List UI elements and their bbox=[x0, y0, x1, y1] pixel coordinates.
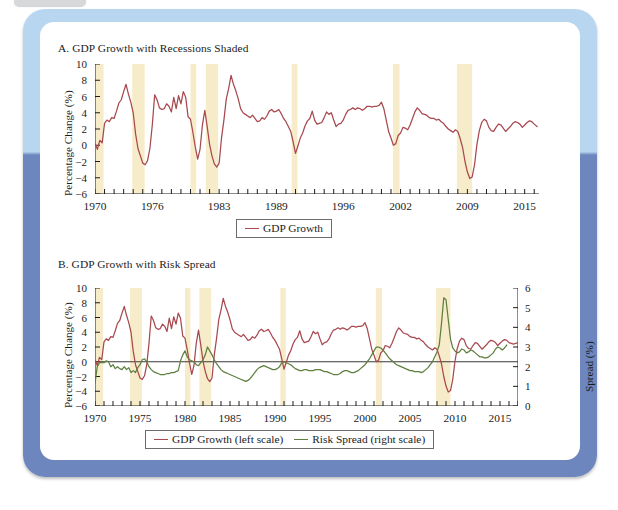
line-dash-icon bbox=[245, 228, 259, 229]
line-dash-icon bbox=[294, 439, 308, 440]
y-tick-right-label: 5 bbox=[525, 302, 539, 314]
legend-label: GDP Growth bbox=[263, 222, 323, 234]
figure-page: A. GDP Growth with Recessions Shaded Per… bbox=[0, 0, 618, 510]
x-tick-label: 1989 bbox=[265, 200, 288, 212]
y-tick-label: −4 bbox=[57, 172, 87, 184]
x-tick-label: 1970 bbox=[84, 412, 107, 424]
x-tick-label: 1983 bbox=[208, 200, 231, 212]
x-tick-label: 1980 bbox=[174, 412, 197, 424]
y-tick-label: 0 bbox=[57, 139, 87, 151]
x-tick-label: 2005 bbox=[399, 412, 422, 424]
x-tick-label: 2002 bbox=[389, 200, 412, 212]
x-tick-label: 1996 bbox=[332, 200, 355, 212]
x-tick-label: 1976 bbox=[141, 200, 164, 212]
y-tick-label: 8 bbox=[57, 74, 87, 86]
y-tick-right-label: 2 bbox=[525, 361, 539, 373]
y-tick-label: 4 bbox=[57, 326, 87, 338]
y-tick-label: 6 bbox=[57, 91, 87, 103]
x-tick-label: 2010 bbox=[444, 412, 467, 424]
recession-band bbox=[457, 64, 472, 194]
y-tick-label: 2 bbox=[57, 341, 87, 353]
x-tick-label: 1990 bbox=[264, 412, 287, 424]
y-tick-right-label: 6 bbox=[525, 282, 539, 294]
panel-b-title: B. GDP Growth with Risk Spread bbox=[58, 258, 216, 270]
y-tick-label: −4 bbox=[57, 385, 87, 397]
recession-band bbox=[190, 64, 196, 194]
x-tick-label: 2015 bbox=[489, 412, 512, 424]
legend-label: GDP Growth (left scale) bbox=[172, 433, 283, 445]
x-tick-label: 1985 bbox=[219, 412, 242, 424]
line-dash-icon bbox=[154, 439, 168, 440]
y-tick-right-label: 4 bbox=[525, 321, 539, 333]
y-tick-label: −2 bbox=[57, 156, 87, 168]
x-tick-label: 2015 bbox=[513, 200, 536, 212]
panel-b-ylabel-right: Spread (%) bbox=[583, 341, 595, 392]
recession-band bbox=[292, 64, 298, 194]
panel-a-title: A. GDP Growth with Recessions Shaded bbox=[58, 42, 248, 54]
panel-b-plot bbox=[95, 288, 518, 406]
x-tick-label: 2009 bbox=[456, 200, 479, 212]
y-tick-label: 10 bbox=[57, 58, 87, 70]
y-tick-label: 0 bbox=[57, 356, 87, 368]
y-tick-label: 4 bbox=[57, 107, 87, 119]
x-tick-label: 1975 bbox=[129, 412, 152, 424]
legend-label: Risk Spread (right scale) bbox=[312, 433, 425, 445]
y-tick-label: −2 bbox=[57, 371, 87, 383]
recession-band bbox=[280, 288, 285, 406]
legend-item-gdp-growth-left: GDP Growth (left scale) bbox=[154, 433, 283, 445]
y-tick-label: 2 bbox=[57, 123, 87, 135]
y-tick-label: −6 bbox=[57, 400, 87, 412]
recession-band bbox=[185, 288, 190, 406]
panel-a-legend: GDP Growth bbox=[236, 219, 332, 238]
panel-a-plot bbox=[95, 64, 539, 194]
y-tick-right-label: 1 bbox=[525, 380, 539, 392]
legend-item-gdp-growth: GDP Growth bbox=[245, 222, 323, 234]
y-tick-label: 8 bbox=[57, 297, 87, 309]
panel-b-legend: GDP Growth (left scale) Risk Spread (rig… bbox=[145, 430, 434, 449]
y-tick-label: 10 bbox=[57, 282, 87, 294]
recession-band bbox=[130, 288, 142, 406]
y-tick-label: −6 bbox=[57, 188, 87, 200]
partial-top-tab bbox=[14, 0, 86, 6]
y-tick-right-label: 0 bbox=[525, 400, 539, 412]
recession-band bbox=[393, 64, 400, 194]
y-tick-label: 6 bbox=[57, 312, 87, 324]
x-tick-label: 1995 bbox=[309, 412, 332, 424]
x-tick-label: 2000 bbox=[354, 412, 377, 424]
recession-band bbox=[132, 64, 144, 194]
legend-item-risk-spread-right: Risk Spread (right scale) bbox=[294, 433, 425, 445]
series-line-gdp-growth bbox=[95, 298, 518, 392]
x-tick-label: 1970 bbox=[84, 200, 107, 212]
y-tick-right-label: 3 bbox=[525, 341, 539, 353]
